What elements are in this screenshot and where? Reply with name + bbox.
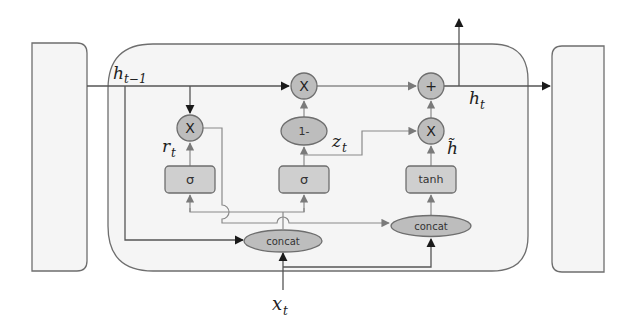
- tanh-box: tanh: [406, 166, 456, 193]
- svg-text:h̃: h̃: [447, 138, 458, 158]
- svg-text:concat: concat: [414, 221, 448, 232]
- multiply-icon: X: [426, 123, 436, 139]
- concat-gates-node: concat: [244, 230, 322, 252]
- sigma-reset-box: σ: [165, 166, 215, 193]
- svg-text:1-: 1-: [299, 125, 310, 138]
- plus-icon: +: [425, 78, 437, 94]
- h-tilde-label: h̃: [447, 138, 458, 158]
- candidate-multiply-node: X: [418, 118, 444, 144]
- svg-text:concat: concat: [266, 236, 300, 247]
- x-t-label: x t: [272, 293, 288, 318]
- svg-text:r: r: [162, 136, 171, 156]
- svg-text:t: t: [480, 98, 485, 112]
- svg-text:σ: σ: [300, 172, 308, 187]
- multiply-icon: X: [185, 120, 195, 136]
- concat-candidate-node: concat: [391, 216, 471, 237]
- svg-text:tanh: tanh: [419, 173, 444, 186]
- svg-text:t: t: [283, 304, 288, 318]
- svg-text:h: h: [469, 88, 480, 108]
- one-minus-node: 1-: [281, 117, 327, 145]
- svg-text:h: h: [113, 63, 124, 83]
- svg-text:t−1: t−1: [124, 72, 147, 86]
- reset-multiply-node: X: [177, 115, 203, 141]
- svg-text:t: t: [171, 146, 176, 160]
- svg-text:t: t: [342, 141, 347, 155]
- add-node: +: [418, 73, 444, 99]
- multiply-icon: X: [299, 78, 309, 94]
- previous-cell-block: [32, 43, 87, 271]
- svg-text:x: x: [272, 293, 282, 314]
- sigma-update-box: σ: [279, 166, 329, 193]
- svg-text:z: z: [331, 131, 342, 151]
- gru-diagram: X X + X 1- σ σ tanh concat concat h t−: [0, 0, 636, 328]
- svg-text:σ: σ: [186, 172, 194, 187]
- next-cell-block: [552, 46, 604, 272]
- update-multiply-node: X: [291, 73, 317, 99]
